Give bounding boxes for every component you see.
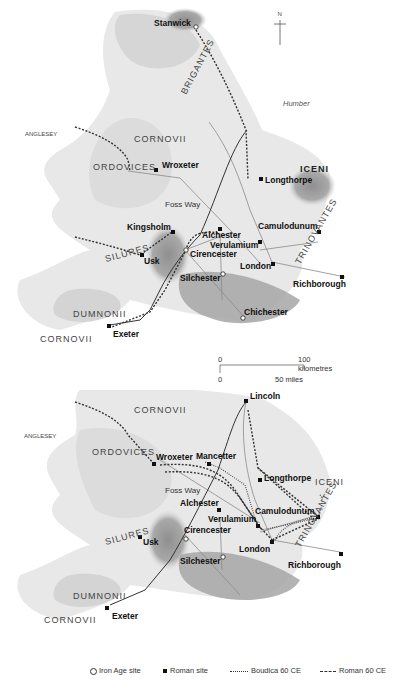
north-arrow-icon: N: [274, 11, 286, 45]
legend-roman-route: Roman 60 CE: [320, 666, 386, 675]
svg-text:N: N: [278, 11, 282, 17]
scale-km-label: 100 kilometres: [298, 355, 336, 373]
site-wroxeter: Wroxeter: [156, 452, 193, 462]
tribe-dumnonii: DUMNONII: [73, 591, 127, 601]
site-verulamium: Verulamium: [208, 514, 257, 524]
roman-route-icon: [320, 671, 336, 672]
tribe-ordovices: ORDOVICES: [93, 162, 156, 172]
site-longthorpe: Longthorpe: [264, 473, 311, 483]
site-chichester: Chichester: [244, 307, 289, 317]
site-usk: Usk: [143, 537, 159, 547]
tribe-cornovii-sw: CORNOVII: [44, 615, 97, 625]
site-london: London: [240, 261, 271, 271]
map-bottom: Lincoln Wroxeter Mancetter Longthorpe Al…: [0, 390, 403, 660]
legend-boudica: Boudica 60 CE: [230, 666, 301, 675]
site-kingsholm: Kingsholm: [127, 222, 171, 232]
boudica-route-icon: [230, 671, 248, 672]
legend: Iron Age site Roman site Boudica 60 CE R…: [0, 662, 403, 682]
site-cirencester: Cirencester: [184, 525, 231, 535]
tribe-cornovii: CORNOVII: [134, 134, 187, 144]
site-exeter: Exeter: [113, 329, 140, 339]
site-cirencester: Cirencester: [190, 249, 237, 259]
site-stanwick: Stanwick: [154, 18, 191, 28]
scale-bar: 0 100 kilometres 0 50 miles: [216, 355, 336, 385]
site-lincoln: Lincoln: [250, 391, 280, 401]
roman-site-icon: [163, 669, 167, 673]
site-silchester: Silchester: [180, 273, 221, 283]
scale-mi-zero: 0: [218, 375, 222, 384]
label-anglesey: ANGLESEY: [24, 433, 56, 439]
site-wroxeter: Wroxeter: [162, 160, 199, 170]
site-silchester: Silchester: [180, 556, 221, 566]
site-london: London: [239, 544, 270, 554]
site-alchester: Alchester: [202, 230, 241, 240]
site-richborough: Richborough: [288, 560, 341, 570]
site-richborough: Richborough: [293, 279, 346, 289]
label-humber: Humber: [283, 99, 310, 108]
label-anglesey: ANGLESEY: [25, 131, 57, 137]
label-foss-way: Foss Way: [165, 486, 200, 495]
tribe-iceni: ICENI: [300, 164, 329, 174]
tribe-ordovices: ORDOVICES: [92, 447, 155, 457]
tribe-cornovii-sw: CORNOVII: [40, 334, 93, 344]
site-alchester: Alchester: [180, 498, 219, 508]
site-camulodunum: Camulodunum: [255, 506, 315, 516]
label-foss-way: Foss Way: [165, 200, 200, 209]
site-usk: Usk: [144, 256, 160, 266]
legend-iron-age: Iron Age site: [90, 666, 141, 675]
site-exeter: Exeter: [112, 611, 139, 621]
tribe-cornovii: CORNOVII: [134, 405, 187, 415]
tribe-dumnonii: DUMNONII: [73, 309, 127, 319]
site-camulodunum: Camulodunum: [258, 221, 318, 231]
site-longthorpe: Longthorpe: [265, 175, 312, 185]
map-top: N Stanwick Wroxeter Longthorpe Kingsholm…: [0, 0, 403, 345]
legend-roman-site: Roman site: [163, 666, 208, 675]
site-mancetter: Mancetter: [196, 451, 237, 461]
scale-km-zero: 0: [218, 355, 222, 364]
scale-mi-label: 50 miles: [275, 375, 303, 384]
iron-age-site-icon: [90, 668, 97, 675]
